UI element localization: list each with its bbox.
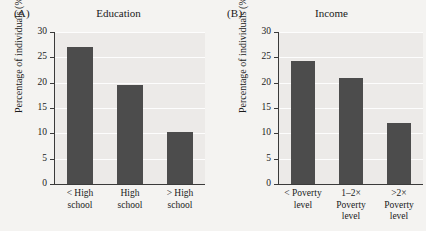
x-axis-category-label: < High school <box>55 188 105 211</box>
panel-b-x-labels: < Poverty level1–2× Poverty level>2× Pov… <box>279 188 423 231</box>
y-tick-label: 5 <box>266 154 271 164</box>
x-axis-category-label: < Poverty level <box>279 188 327 211</box>
figure: (A) Education Percentage of individuals … <box>0 0 426 231</box>
x-axis-category-label: >2× Poverty level <box>375 188 423 223</box>
x-axis-category-label: > High school <box>155 188 205 211</box>
y-tick-label: 0 <box>42 179 47 189</box>
bar <box>387 123 412 184</box>
y-tick <box>274 184 279 185</box>
bar <box>339 78 364 184</box>
panel-b-bars <box>279 32 423 184</box>
panel-a-bars <box>55 32 205 184</box>
y-tick-label: 25 <box>262 53 272 63</box>
y-tick-label: 5 <box>42 154 47 164</box>
panel-b-y-axis-label: Percentage of individuals (%) <box>237 0 248 129</box>
y-tick-label: 30 <box>262 27 272 37</box>
y-tick-label: 30 <box>38 27 48 37</box>
bar <box>117 85 143 184</box>
y-tick-label: 20 <box>262 78 272 88</box>
bar <box>167 132 193 184</box>
y-tick <box>50 184 55 185</box>
x-axis-category-label: High school <box>105 188 155 211</box>
panel-a-x-labels: < High schoolHigh school> High school <box>55 188 205 231</box>
panel-b-plot-area: 051015202530 < Poverty level1–2× Poverty… <box>279 32 423 184</box>
panel-a-y-axis-label: Percentage of individuals (%) <box>13 0 24 129</box>
panel-a-x-axis-line <box>54 184 205 185</box>
bar <box>67 47 93 184</box>
x-axis-category-label: 1–2× Poverty level <box>327 188 375 223</box>
panel-a-plot-area: 051015202530 < High schoolHigh school> H… <box>55 32 205 184</box>
y-tick-label: 0 <box>266 179 271 189</box>
y-tick-label: 15 <box>38 103 48 113</box>
y-tick-label: 15 <box>262 103 272 113</box>
panel-b: (B) Income Percentage of individuals (%)… <box>213 0 426 231</box>
panel-a-title: Education <box>0 7 213 19</box>
y-tick-label: 10 <box>38 129 48 139</box>
y-tick-label: 25 <box>38 53 48 63</box>
y-tick-label: 10 <box>262 129 272 139</box>
panel-a: (A) Education Percentage of individuals … <box>0 0 213 231</box>
y-tick-label: 20 <box>38 78 48 88</box>
bar <box>291 61 316 184</box>
panel-b-x-axis-line <box>278 184 423 185</box>
